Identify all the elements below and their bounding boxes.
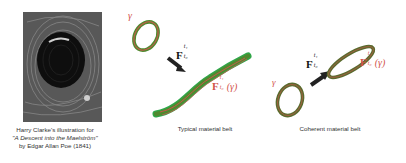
typical-image-label: Ft₁t₀(γ)	[212, 76, 237, 94]
belt-diagram	[0, 0, 406, 163]
coherent-caption: Coherent material belt	[285, 125, 375, 133]
coherent-image-label: Ft₁t₀(γ)	[360, 52, 385, 70]
coherent-initial-belt	[273, 81, 306, 119]
typical-flow-map-label: Ft₁t₀	[176, 45, 191, 63]
coherent-flow-map-label: Ft₁t₀	[306, 54, 321, 72]
typical-caption: Typical material belt	[160, 125, 250, 133]
typical-gamma-label: γ	[128, 10, 132, 21]
coherent-gamma-label: γ	[272, 77, 276, 87]
typical-initial-belt	[129, 18, 163, 55]
